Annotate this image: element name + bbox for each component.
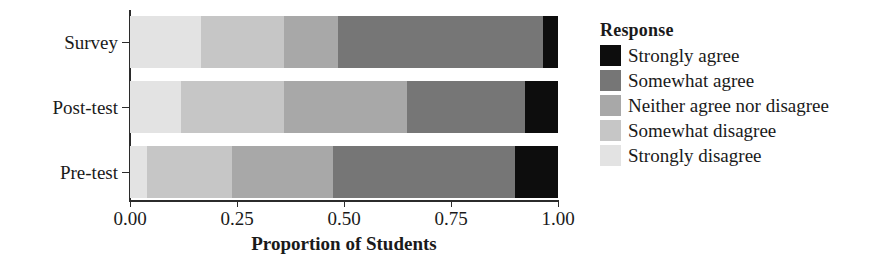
legend-label-neither-agree-nor-disagree: Neither agree nor disagree xyxy=(628,95,829,117)
segment-pre-test-strongly-disagree xyxy=(130,146,147,198)
y-axis-label-survey: Survey xyxy=(0,33,118,52)
segment-survey-somewhat-disagree xyxy=(201,16,284,68)
stacked-bar-chart-figure: Survey Post-test Pre-test xyxy=(0,0,887,263)
x-axis-ticklabel-4: 1.00 xyxy=(541,208,574,230)
legend-item-strongly-disagree: Strongly disagree xyxy=(600,143,880,168)
segment-post-test-neither-agree-nor-disagree xyxy=(284,81,407,133)
segment-post-test-strongly-disagree xyxy=(130,81,181,133)
x-axis-tick-2 xyxy=(344,201,345,207)
segment-pre-test-strongly-agree xyxy=(515,146,558,198)
x-axis-ticklabel-1: 0.25 xyxy=(220,208,253,230)
legend-item-somewhat-agree: Somewhat agree xyxy=(600,68,880,93)
segment-pre-test-neither-agree-nor-disagree xyxy=(232,146,333,198)
y-axis-tick-survey xyxy=(122,42,129,43)
x-axis-ticklabel-3: 0.75 xyxy=(434,208,467,230)
legend-swatch-somewhat-disagree xyxy=(600,120,621,141)
x-axis-ticklabel-2: 0.50 xyxy=(327,208,360,230)
y-axis-labels: Survey Post-test Pre-test xyxy=(0,0,118,263)
segment-pre-test-somewhat-disagree xyxy=(147,146,232,198)
legend-swatch-neither-agree-nor-disagree xyxy=(600,95,621,116)
x-axis-tick-4 xyxy=(558,201,559,207)
x-axis-tick-3 xyxy=(451,201,452,207)
legend-swatch-somewhat-agree xyxy=(600,70,621,91)
legend-swatch-strongly-agree xyxy=(600,45,621,66)
legend-item-strongly-agree: Strongly agree xyxy=(600,43,880,68)
bar-pre-test xyxy=(130,146,558,198)
y-axis-label-post-test: Post-test xyxy=(0,98,118,117)
segment-post-test-somewhat-disagree xyxy=(181,81,284,133)
x-axis-ticklabel-0: 0.00 xyxy=(113,208,146,230)
bar-survey xyxy=(130,16,558,68)
y-axis-label-pre-test: Pre-test xyxy=(0,163,118,182)
segment-survey-strongly-agree xyxy=(543,16,558,68)
y-axis-tick-pre-test xyxy=(122,172,129,173)
x-axis-tick-0 xyxy=(130,201,131,207)
plot-area xyxy=(130,14,558,200)
legend-label-strongly-agree: Strongly agree xyxy=(628,45,739,67)
legend-title: Response xyxy=(600,20,880,41)
x-axis-tick-1 xyxy=(237,201,238,207)
legend-item-somewhat-disagree: Somewhat disagree xyxy=(600,118,880,143)
x-axis-title: Proportion of Students xyxy=(129,233,559,255)
segment-survey-somewhat-agree xyxy=(338,16,543,68)
y-axis-tick-post-test xyxy=(122,107,129,108)
legend-label-somewhat-disagree: Somewhat disagree xyxy=(628,120,776,142)
segment-pre-test-somewhat-agree xyxy=(333,146,515,198)
bar-post-test xyxy=(130,81,558,133)
segment-post-test-somewhat-agree xyxy=(407,81,525,133)
legend-swatch-strongly-disagree xyxy=(600,145,621,166)
legend-label-strongly-disagree: Strongly disagree xyxy=(628,145,762,167)
legend-item-neither-agree-nor-disagree: Neither agree nor disagree xyxy=(600,93,880,118)
segment-post-test-strongly-agree xyxy=(525,81,558,133)
segment-survey-strongly-disagree xyxy=(130,16,201,68)
legend: Response Strongly agree Somewhat agree N… xyxy=(600,20,880,168)
legend-label-somewhat-agree: Somewhat agree xyxy=(628,70,754,92)
segment-survey-neither-agree-nor-disagree xyxy=(284,16,338,68)
